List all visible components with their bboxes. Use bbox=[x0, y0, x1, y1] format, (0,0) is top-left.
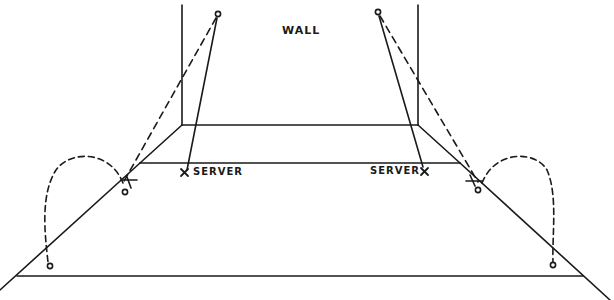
wall-label: WALL bbox=[282, 24, 320, 37]
left-serve-path-solid bbox=[187, 18, 217, 170]
player-low-left-icon bbox=[47, 263, 52, 268]
right-floor-corner bbox=[418, 125, 460, 163]
player-mid-left-icon bbox=[122, 189, 127, 194]
player-top-left-icon bbox=[215, 11, 220, 16]
server-right-label: SERVER bbox=[370, 165, 420, 176]
player-top-right-icon bbox=[375, 9, 380, 14]
server-left-x-icon bbox=[181, 169, 188, 176]
server-left-label: SERVER bbox=[193, 166, 243, 177]
player-mid-right-icon bbox=[475, 187, 480, 192]
left-tick-mark-2 bbox=[127, 177, 131, 188]
right-serve-path-solid bbox=[379, 16, 423, 167]
left-floor-corner bbox=[140, 125, 182, 163]
player-low-right-icon bbox=[550, 262, 555, 267]
right-serve-path-dashed bbox=[380, 16, 478, 182]
left-serve-path-dashed bbox=[123, 18, 216, 183]
right-arc-path bbox=[482, 156, 554, 262]
left-sideline bbox=[0, 163, 140, 290]
left-arc-path bbox=[45, 156, 123, 262]
server-right-x-icon bbox=[421, 168, 428, 175]
court-diagram bbox=[0, 0, 614, 300]
